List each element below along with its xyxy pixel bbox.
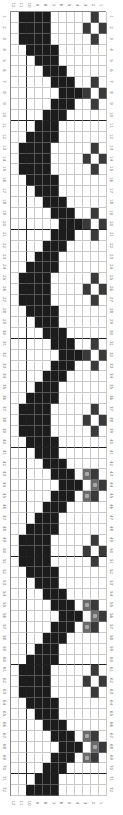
empty-cell <box>91 382 99 393</box>
empty-cell <box>67 785 75 796</box>
empty-cell <box>83 317 91 328</box>
filled-stitch-cell <box>35 121 43 132</box>
filled-stitch-cell <box>27 164 35 175</box>
filled-stitch-cell <box>35 644 43 655</box>
empty-cell <box>83 557 91 568</box>
empty-cell <box>91 132 99 143</box>
empty-cell <box>59 295 67 306</box>
filled-stitch-cell <box>51 589 59 600</box>
row-label: 50 <box>107 544 118 556</box>
empty-cell <box>43 742 51 753</box>
row-label: 30 <box>0 327 10 337</box>
filled-stitch-cell <box>27 273 35 284</box>
filled-stitch-cell <box>51 633 59 644</box>
empty-cell <box>83 230 91 241</box>
empty-cell <box>91 698 99 709</box>
empty-cell <box>11 491 19 502</box>
empty-cell <box>83 34 91 45</box>
filled-stitch-cell <box>27 284 35 295</box>
empty-cell <box>19 262 27 273</box>
empty-cell <box>11 709 19 720</box>
empty-cell <box>75 513 83 524</box>
empty-cell <box>91 241 99 252</box>
filled-stitch-cell <box>27 175 35 186</box>
empty-cell <box>75 720 83 731</box>
empty-cell <box>75 45 83 56</box>
filled-stitch-cell <box>35 546 43 557</box>
row-label: 13 <box>107 141 118 153</box>
empty-cell <box>83 611 91 622</box>
empty-cell <box>35 742 43 753</box>
empty-cell <box>75 665 83 676</box>
empty-cell <box>67 154 75 165</box>
empty-cell <box>75 208 83 219</box>
empty-cell <box>11 426 19 437</box>
row-label: 58 <box>0 632 10 642</box>
empty-cell <box>75 459 83 470</box>
empty-cell <box>19 655 27 666</box>
empty-cell <box>59 121 67 132</box>
row-label: 12 <box>0 131 10 141</box>
empty-cell <box>59 567 67 578</box>
empty-cell <box>35 219 43 230</box>
empty-cell <box>67 66 75 77</box>
empty-cell <box>35 350 43 361</box>
empty-cell <box>83 208 91 219</box>
filled-stitch-cell <box>51 45 59 56</box>
row-label: 71 <box>0 774 10 784</box>
empty-cell <box>75 132 83 143</box>
empty-cell <box>83 197 91 208</box>
empty-cell <box>19 328 27 339</box>
filled-stitch-cell <box>51 241 59 252</box>
filled-stitch-cell <box>43 34 51 45</box>
empty-cell <box>59 382 67 393</box>
filled-stitch-cell <box>43 578 51 589</box>
empty-cell <box>11 665 19 676</box>
filled-stitch-cell <box>43 655 51 666</box>
empty-cell <box>83 393 91 404</box>
filled-stitch-cell <box>43 393 51 404</box>
empty-cell <box>83 132 91 143</box>
empty-cell <box>75 12 83 23</box>
filled-stitch-cell <box>51 655 59 666</box>
symbol-stitch-cell <box>83 469 91 480</box>
filled-stitch-cell <box>43 644 51 655</box>
filled-stitch-cell <box>51 513 59 524</box>
filled-stitch-cell <box>43 785 51 796</box>
row-label: 43 <box>0 469 10 479</box>
empty-cell <box>75 774 83 785</box>
empty-cell <box>35 99 43 110</box>
row-label: 5 <box>0 55 10 65</box>
empty-cell <box>11 655 19 666</box>
empty-cell <box>11 753 19 764</box>
empty-cell <box>75 448 83 459</box>
empty-cell <box>67 633 75 644</box>
empty-cell <box>67 698 75 709</box>
filled-stitch-cell <box>67 361 75 372</box>
filled-stitch-cell <box>27 567 35 578</box>
filled-stitch-cell <box>67 77 75 88</box>
empty-cell <box>51 665 59 676</box>
empty-cell <box>35 622 43 633</box>
empty-cell <box>11 382 19 393</box>
empty-cell <box>11 175 19 186</box>
filled-stitch-cell <box>67 731 75 742</box>
empty-cell <box>91 459 99 470</box>
filled-stitch-cell <box>67 219 75 230</box>
empty-cell <box>11 143 19 154</box>
empty-cell <box>67 557 75 568</box>
motif-stitch-cell <box>91 143 99 154</box>
empty-cell <box>75 698 83 709</box>
filled-stitch-cell <box>19 284 27 295</box>
row-label: 64 <box>0 698 10 708</box>
empty-cell <box>75 763 83 774</box>
empty-cell <box>67 774 75 785</box>
filled-stitch-cell <box>27 154 35 165</box>
motif-stitch-cell <box>91 164 99 175</box>
empty-cell <box>83 448 91 459</box>
filled-stitch-cell <box>51 753 59 764</box>
filled-stitch-cell <box>51 567 59 578</box>
empty-cell <box>91 186 99 197</box>
filled-stitch-cell <box>27 524 35 535</box>
empty-cell <box>75 371 83 382</box>
